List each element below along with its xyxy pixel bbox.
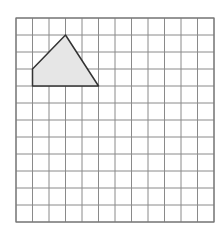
shaded-quadrilateral [33,35,99,86]
grid-diagram [0,0,224,237]
grid-lines [16,18,214,222]
